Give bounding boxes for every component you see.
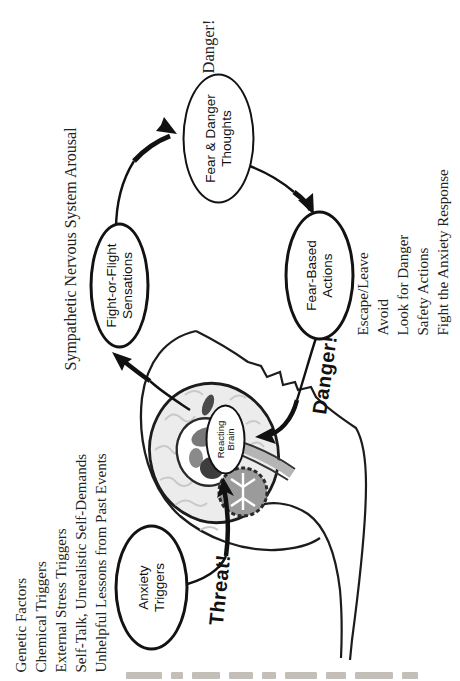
rotated-figure-layer: Genetic Factors Chemical Triggers Extern… (0, 0, 460, 681)
figure-page: Genetic Factors Chemical Triggers Extern… (0, 0, 460, 681)
trigger-item: Genetic Factors (10, 453, 30, 672)
trigger-item: Self-Talk, Unrealistic Self-Demands (70, 453, 90, 672)
node-fear-danger-thoughts: Fear & Danger Thoughts (182, 73, 254, 203)
node-label: Reacting (215, 420, 225, 458)
node-anxiety-triggers: Anxiety Triggers (114, 524, 188, 650)
danger-shout-label: Danger! (308, 334, 342, 416)
node-fear-based-actions: Fear-Based Actions (284, 210, 354, 340)
node-reacting-brain: Reacting Brain (205, 404, 245, 474)
node-label: Thoughts (218, 94, 234, 183)
node-label: Fear & Danger (202, 94, 218, 183)
action-item: Look for Danger (392, 169, 412, 335)
fear-based-action-list: Escape/Leave Avoid Look for Danger Safet… (352, 169, 452, 335)
node-label: Anxiety (135, 563, 151, 612)
sympathetic-arousal-label: Sympathetic Nervous System Arousal (61, 127, 79, 370)
node-label: Sensations (119, 243, 135, 327)
action-item: Escape/Leave (352, 169, 372, 335)
danger-thought-label: Danger! (198, 19, 218, 73)
action-item: Avoid (372, 169, 392, 335)
node-label: Fear-Based (303, 240, 319, 311)
trigger-item: Chemical Triggers (30, 453, 50, 672)
action-item: Fight the Anxiety Response (432, 169, 452, 335)
node-label: Actions (319, 240, 335, 311)
trigger-item: Unhelpful Lessons from Past Events (90, 453, 110, 672)
node-label: Brain (225, 420, 235, 458)
node-fight-or-flight: Fight-or-Flight Sensations (89, 222, 149, 348)
action-item: Safety Actions (412, 169, 432, 335)
node-label: Triggers (151, 563, 167, 612)
anxiety-trigger-list: Genetic Factors Chemical Triggers Extern… (10, 453, 110, 672)
trigger-item: External Stress Triggers (50, 453, 70, 672)
threat-shout-label: Threat! (204, 553, 234, 626)
node-label: Fight-or-Flight (103, 243, 119, 327)
cutoff-caption-remnant (126, 668, 444, 681)
